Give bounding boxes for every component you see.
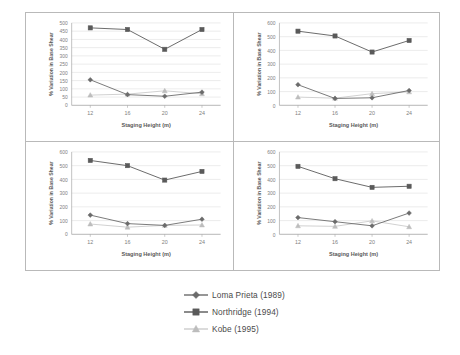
chart-panel-top-left: 05010015020025030035040045050012162024St… <box>25 12 233 141</box>
data-point-square-marker <box>295 164 299 168</box>
y-axis-tick-label: 200 <box>267 205 275 210</box>
data-point-square-marker <box>332 177 336 181</box>
data-point-diamond-marker <box>193 291 200 298</box>
x-axis-tick-label: 20 <box>369 110 375 116</box>
line-chart-top-left: 05010015020025030035040045050012162024St… <box>26 13 233 141</box>
panel-grid: 05010015020025030035040045050012162024St… <box>25 12 440 270</box>
data-point-diamond-marker <box>88 213 93 218</box>
data-point-square-marker <box>369 185 373 189</box>
y-axis-tick-label: 600 <box>267 21 275 26</box>
data-point-square-marker <box>125 27 129 31</box>
line-chart-bottom-left: 010020030040050060012162024Staging Heigh… <box>26 142 233 270</box>
legend-marker-triangle-icon <box>183 322 209 336</box>
x-axis-tick-label: 24 <box>406 239 412 245</box>
line-chart-bottom-right: 010020030040050060012162024Staging Heigh… <box>234 142 440 270</box>
chart-panel-bottom-left: 010020030040050060012162024Staging Heigh… <box>25 141 233 271</box>
data-point-square-marker <box>125 164 129 168</box>
y-axis-tick-label: 500 <box>59 164 68 169</box>
data-point-square-marker <box>193 308 199 314</box>
series-northridge <box>295 164 410 189</box>
series-line <box>90 80 202 96</box>
data-point-diamond-marker <box>369 224 374 229</box>
chart-panel-top-right: 010020030040050060012162024Staging Heigh… <box>233 12 441 141</box>
y-axis-title: % Variation in Base Shear <box>48 162 54 225</box>
series-northridge <box>88 158 204 182</box>
x-axis-tick-label: 12 <box>87 239 93 245</box>
x-axis-title: Staging Height (m) <box>121 251 170 257</box>
multi-panel-figure: 05010015020025030035040045050012162024St… <box>0 0 460 355</box>
y-axis-tick-label: 600 <box>59 150 68 155</box>
data-point-square-marker <box>407 38 411 42</box>
y-axis-tick-label: 400 <box>267 49 275 54</box>
y-axis-tick-label: 100 <box>59 219 68 224</box>
y-axis-tick-label: 50 <box>62 95 68 100</box>
data-point-square-marker <box>88 158 92 162</box>
data-point-square-marker <box>407 184 411 188</box>
y-axis-tick-label: 0 <box>272 103 275 108</box>
y-axis-tick-label: 500 <box>267 164 275 169</box>
figure-legend: Loma Prieta (1989) Northridge (1994) Kob… <box>183 286 373 337</box>
data-point-square-marker <box>200 27 204 31</box>
legend-label-loma-prieta: Loma Prieta (1989) <box>212 290 285 300</box>
data-point-square-marker <box>200 169 204 173</box>
x-axis-tick-label: 24 <box>199 110 205 116</box>
data-point-square-marker <box>332 34 336 38</box>
legend-marker-diamond-icon <box>183 288 209 302</box>
y-axis-tick-label: 200 <box>267 76 275 81</box>
y-axis-tick-label: 350 <box>59 46 68 51</box>
data-point-diamond-marker <box>369 95 374 100</box>
x-axis-tick-label: 16 <box>125 110 131 116</box>
y-axis-tick-label: 200 <box>59 205 68 210</box>
series-loma <box>295 211 411 228</box>
legend-label-northridge: Northridge (1994) <box>212 307 279 317</box>
y-axis-tick-label: 100 <box>267 219 275 224</box>
x-axis-tick-label: 20 <box>162 239 168 245</box>
x-axis-title: Staging Height (m) <box>329 251 378 257</box>
y-axis-tick-label: 0 <box>65 233 68 238</box>
y-axis-title: % Variation in Base Shear <box>48 32 54 95</box>
x-axis-title: Staging Height (m) <box>329 122 378 128</box>
legend-item-northridge: Northridge (1994) <box>183 303 373 320</box>
data-point-square-marker <box>369 50 373 54</box>
data-point-square-marker <box>163 47 167 51</box>
legend-marker-square-icon <box>183 305 209 319</box>
x-axis-tick-label: 20 <box>369 239 375 245</box>
y-axis-tick-label: 250 <box>59 62 68 67</box>
y-axis-tick-label: 450 <box>59 29 68 34</box>
y-axis-tick-label: 0 <box>65 104 68 109</box>
data-point-diamond-marker <box>125 221 130 226</box>
series-line <box>297 92 408 98</box>
x-axis-tick-label: 24 <box>406 110 412 116</box>
data-point-square-marker <box>295 29 299 33</box>
data-point-diamond-marker <box>406 211 411 216</box>
y-axis-tick-label: 150 <box>59 79 68 84</box>
series-line <box>297 166 408 187</box>
y-axis-tick-label: 0 <box>272 233 275 238</box>
series-line <box>90 215 202 225</box>
x-axis-tick-label: 16 <box>332 239 338 245</box>
x-axis-tick-label: 12 <box>87 110 93 116</box>
x-axis-tick-label: 20 <box>162 110 168 116</box>
legend-label-kobe: Kobe (1995) <box>212 324 259 334</box>
y-axis-tick-label: 200 <box>59 71 68 76</box>
y-axis-tick-label: 400 <box>59 178 68 183</box>
x-axis-tick-label: 16 <box>125 239 131 245</box>
data-point-diamond-marker <box>332 219 337 224</box>
y-axis-tick-label: 500 <box>267 35 275 40</box>
legend-item-kobe: Kobe (1995) <box>183 320 373 337</box>
chart-panel-bottom-right: 010020030040050060012162024Staging Heigh… <box>233 141 441 271</box>
series-line <box>90 161 202 181</box>
line-chart-top-right: 010020030040050060012162024Staging Heigh… <box>234 13 440 141</box>
data-point-diamond-marker <box>295 82 300 87</box>
data-point-square-marker <box>88 26 92 30</box>
data-point-diamond-marker <box>162 94 167 99</box>
y-axis-tick-label: 300 <box>267 62 275 67</box>
x-axis-tick-label: 16 <box>332 110 338 116</box>
y-axis-tick-label: 300 <box>59 54 68 59</box>
y-axis-tick-label: 400 <box>267 178 275 183</box>
y-axis-tick-label: 600 <box>267 150 275 155</box>
y-axis-tick-label: 300 <box>59 191 68 196</box>
series-line <box>90 91 202 95</box>
data-point-diamond-marker <box>200 217 205 222</box>
y-axis-tick-label: 500 <box>59 21 68 26</box>
